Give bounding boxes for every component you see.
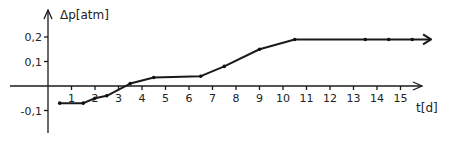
data-point — [387, 38, 391, 42]
data-point — [105, 94, 109, 98]
data-point — [410, 38, 414, 42]
line-chart: 1234567891011121314150,20,1-0,1 Δp[atm] … — [0, 0, 463, 141]
x-tick-label: 11 — [300, 92, 314, 105]
x-tick-label: 9 — [256, 92, 263, 105]
data-point — [128, 82, 132, 86]
x-tick-label: 12 — [323, 92, 337, 105]
data-point — [58, 101, 62, 105]
data-point — [199, 74, 203, 78]
data-point — [152, 76, 156, 80]
x-tick-label: 7 — [209, 92, 216, 105]
data-point — [93, 96, 97, 100]
x-tick-label: 10 — [276, 92, 290, 105]
x-tick-label: 3 — [115, 92, 122, 105]
y-tick-label: 0,1 — [25, 56, 43, 69]
ticks: 1234567891011121314150,20,1-0,1 — [21, 31, 408, 118]
y-tick-label: -0,1 — [21, 105, 42, 118]
x-tick-label: 8 — [233, 92, 240, 105]
axes — [10, 10, 422, 133]
x-tick-label: 4 — [139, 92, 146, 105]
x-tick-label: 5 — [162, 92, 169, 105]
x-tick-label: 14 — [370, 92, 384, 105]
x-tick-label: 6 — [186, 92, 193, 105]
y-tick-label: 0,2 — [25, 31, 43, 44]
chart: 1234567891011121314150,20,1-0,1 Δp[atm] … — [0, 0, 463, 141]
y-axis-label: Δp[atm] — [60, 8, 109, 22]
data-point — [293, 38, 297, 42]
data-point — [81, 101, 85, 105]
x-tick-label: 13 — [347, 92, 361, 105]
data-point — [222, 65, 226, 69]
x-axis-label: t[d] — [416, 101, 438, 115]
x-tick-label: 15 — [394, 92, 408, 105]
data-point — [363, 38, 367, 42]
data-point — [258, 47, 262, 51]
